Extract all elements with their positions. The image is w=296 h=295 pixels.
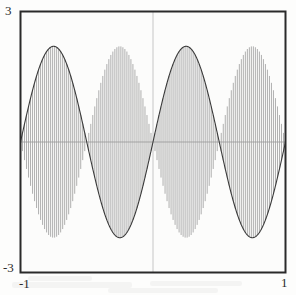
plot-canvas xyxy=(0,0,296,295)
y-axis-min-tick-label: -3 xyxy=(3,261,14,274)
y-axis-max-tick-label: 3 xyxy=(5,4,12,17)
x-axis-max-tick-label: 1 xyxy=(281,276,288,289)
waveform-figure: 3 -3 -1 1 xyxy=(0,0,296,295)
x-axis-min-tick-label: -1 xyxy=(19,277,30,290)
